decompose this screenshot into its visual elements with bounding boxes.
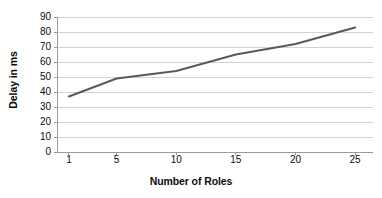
y-axis-tick-label: 30 xyxy=(40,102,51,112)
y-axis-tick-label: 60 xyxy=(40,57,51,67)
y-axis-tick-label: 90 xyxy=(40,12,51,22)
x-axis-tick-label: 10 xyxy=(171,155,182,165)
y-axis-tick-label: 20 xyxy=(40,117,51,127)
y-axis-tick-label: 10 xyxy=(40,132,51,142)
y-axis-tick-label: 70 xyxy=(40,42,51,52)
y-axis-title: Delay in ms xyxy=(0,0,26,160)
line-chart: Delay in ms 0102030405060708090 15101520… xyxy=(0,0,382,198)
x-axis-tick-label: 20 xyxy=(290,155,301,165)
y-axis-tick-label: 40 xyxy=(40,87,51,97)
plot-area xyxy=(57,17,373,152)
x-axis-tick-label: 25 xyxy=(350,155,361,165)
x-axis-tick-labels: 1510152025 xyxy=(0,155,382,171)
x-axis-title: Number of Roles xyxy=(0,175,382,187)
y-axis-title-text: Delay in ms xyxy=(7,51,19,108)
x-axis-tick-label: 5 xyxy=(114,155,120,165)
axis-lines xyxy=(57,17,373,152)
x-axis-tick-label: 15 xyxy=(230,155,241,165)
y-axis-tick-label: 50 xyxy=(40,72,51,82)
x-axis-tick-label: 1 xyxy=(66,155,72,165)
gridlines xyxy=(57,17,373,152)
y-axis-tick-label: 80 xyxy=(40,27,51,37)
plot-svg xyxy=(57,17,373,152)
